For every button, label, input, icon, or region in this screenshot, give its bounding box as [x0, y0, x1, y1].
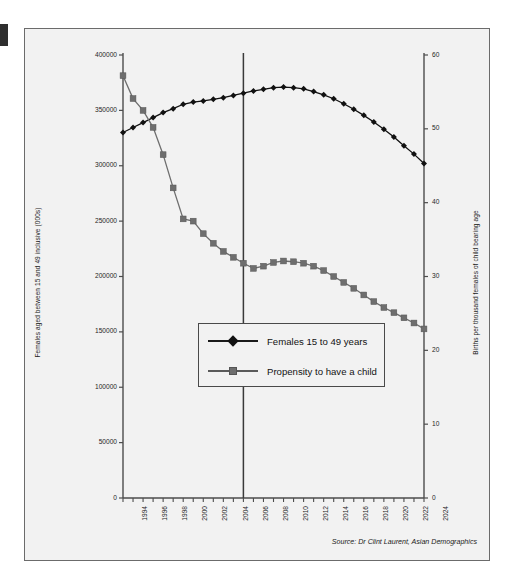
data-point-marker [391, 310, 397, 316]
y-axis-tick-label: 100000 [75, 383, 117, 390]
data-point-marker [381, 305, 387, 311]
y2-axis-tick-label: 50 [432, 124, 462, 131]
data-point-marker [120, 73, 126, 79]
data-point-marker [301, 86, 307, 92]
data-point-marker [150, 115, 156, 121]
data-point-marker [210, 240, 216, 246]
data-point-marker [180, 216, 186, 222]
y-axis-tick-label: 300000 [75, 161, 117, 168]
data-point-marker [190, 99, 196, 105]
x-axis-tick-label: 2006 [261, 506, 268, 521]
data-point-marker [271, 85, 277, 91]
y2-axis-tick-label: 0 [432, 494, 462, 501]
data-point-marker [341, 101, 347, 107]
legend-marker-diamond-icon [208, 334, 258, 348]
data-point-marker [301, 260, 307, 266]
data-point-marker [351, 106, 357, 112]
data-point-marker [351, 285, 357, 291]
legend-label-females: Females 15 to 49 years [267, 336, 367, 347]
y2-axis-tick-label: 40 [432, 198, 462, 205]
data-point-marker [230, 254, 236, 260]
data-point-marker [210, 96, 216, 102]
data-point-marker [271, 260, 277, 266]
data-point-marker [170, 185, 176, 191]
data-point-marker [331, 96, 337, 102]
chart-legend: Females 15 to 49 years Propensity to hav… [198, 323, 385, 387]
data-point-marker [130, 125, 136, 131]
data-point-marker [421, 326, 427, 332]
data-point-marker [401, 315, 407, 321]
x-axis-tick-label: 2024 [442, 506, 449, 521]
data-point-marker [170, 106, 176, 112]
data-point-marker [321, 92, 327, 98]
data-point-marker [251, 265, 257, 271]
series-line-propensity [123, 76, 424, 329]
x-axis-tick-label: 2002 [221, 506, 228, 521]
x-axis-tick-label: 2004 [241, 506, 248, 521]
x-axis-tick-label: 1994 [141, 506, 148, 521]
data-point-marker [341, 280, 347, 286]
x-axis-tick-label: 1996 [161, 506, 168, 521]
data-point-marker [371, 299, 377, 305]
data-point-marker [140, 120, 146, 126]
data-point-marker [240, 90, 246, 96]
data-point-marker [180, 101, 186, 107]
data-point-marker [130, 96, 136, 102]
y-axis-tick-label: 350000 [75, 106, 117, 113]
y-axis-tick-label: 50000 [75, 438, 117, 445]
x-axis-tick-label: 2008 [281, 506, 288, 521]
data-point-marker [200, 98, 206, 104]
y-axis-tick-label: 0 [75, 494, 117, 501]
data-point-marker [220, 95, 226, 101]
y2-axis-tick-label: 10 [432, 420, 462, 427]
legend-item-females: Females 15 to 49 years [199, 330, 384, 352]
y-axis-tick-label: 250000 [75, 217, 117, 224]
legend-label-propensity: Propensity to have a child [267, 366, 377, 377]
data-point-marker [250, 88, 256, 94]
data-point-marker [260, 86, 266, 92]
data-point-marker [160, 152, 166, 158]
legend-marker-square-icon [208, 364, 258, 378]
x-axis-tick-label: 2010 [301, 506, 308, 521]
y-axis-tick-label: 200000 [75, 272, 117, 279]
x-axis-tick-label: 2022 [422, 506, 429, 521]
x-axis-tick-label: 1998 [181, 506, 188, 521]
data-point-marker [230, 92, 236, 98]
page-edge-artifact [0, 24, 8, 46]
data-point-marker [190, 218, 196, 224]
series-line-females [123, 87, 424, 163]
data-point-marker [200, 231, 206, 237]
data-point-marker [321, 268, 327, 274]
data-point-marker [150, 124, 156, 130]
data-point-marker [361, 292, 367, 298]
data-point-marker [411, 320, 417, 326]
data-point-marker [281, 258, 287, 264]
data-point-marker [331, 274, 337, 280]
x-axis-tick-label: 2012 [321, 506, 328, 521]
chart-figure: Females aged between 15 and 49 inclusive… [24, 28, 490, 561]
data-point-marker [311, 263, 317, 269]
x-axis-tick-label: 2000 [201, 506, 208, 521]
data-point-marker [291, 259, 297, 265]
x-axis-tick-label: 2020 [402, 506, 409, 521]
data-point-marker [120, 130, 126, 136]
y2-axis-tick-label: 30 [432, 272, 462, 279]
y-axis-tick-label: 150000 [75, 327, 117, 334]
legend-item-propensity: Propensity to have a child [199, 360, 384, 382]
data-point-marker [140, 107, 146, 113]
data-point-marker [220, 248, 226, 254]
data-point-marker [261, 263, 267, 269]
y-axis-tick-label: 400000 [75, 51, 117, 58]
source-attribution: Source: Dr Clint Laurent, Asian Demograp… [332, 538, 477, 546]
x-axis-tick-label: 2014 [342, 506, 349, 521]
x-axis-tick-label: 2016 [362, 506, 369, 521]
y2-axis-tick-label: 20 [432, 346, 462, 353]
y2-axis-tick-label: 60 [432, 51, 462, 58]
x-axis-tick-label: 2018 [382, 506, 389, 521]
data-point-marker [281, 84, 287, 90]
data-point-marker [160, 110, 166, 116]
data-point-marker [311, 89, 317, 95]
data-point-marker [241, 260, 247, 266]
data-point-marker [291, 85, 297, 91]
